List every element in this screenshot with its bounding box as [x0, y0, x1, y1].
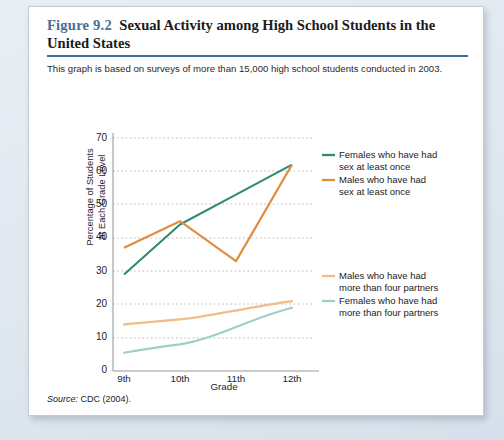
legend-label-line-2: more than four partners [339, 282, 469, 294]
y-axis-label-line-1: Percentage of Students [85, 127, 97, 267]
source-label: Source: [47, 394, 78, 404]
source-text: CDC (2004). [81, 394, 132, 404]
legend-label-line-2: sex at least once [339, 186, 469, 198]
figure-title-line-2: United States [47, 35, 467, 53]
legend-label-line-2: more than four partners [339, 307, 469, 319]
y-tick-label-30: 30 [85, 265, 107, 276]
y-axis-label: Percentage of Students at Each Grade Lev… [85, 127, 108, 267]
axis-lines [113, 133, 319, 371]
x-tick-label-12th: 12th [272, 373, 312, 384]
grid-lines [113, 138, 313, 338]
source-note: Source: CDC (2004). [47, 394, 131, 404]
title-divider [47, 55, 468, 57]
legend-item-males-four-partners: Males who have had more than four partne… [339, 270, 469, 294]
legend-item-females-four-partners: Females who have had more than four part… [339, 295, 469, 319]
x-axis-label: Grade [179, 381, 269, 392]
y-axis-label-line-2: at Each Grade Level [97, 127, 109, 267]
series-line-females-four-partners [124, 308, 292, 353]
legend-label-line-2: sex at least once [339, 161, 469, 173]
y-tick-label-20: 20 [85, 298, 107, 309]
series-line-males-four-partners [124, 301, 292, 324]
legend-item-males-sex-once: Males who have had sex at least once [339, 174, 469, 198]
x-tick-label-9th: 9th [104, 373, 144, 384]
figure-title-line-1: Figure 9.2 Sexual Activity among High Sc… [47, 17, 467, 35]
legend-label-line-1: Males who have had [339, 270, 469, 282]
figure-number: Figure 9.2 [47, 17, 112, 33]
y-tick-label-50: 50 [85, 198, 107, 209]
figure-card: Figure 9.2 Sexual Activity among High Sc… [28, 6, 484, 416]
series-line-males-sex-once [124, 165, 292, 262]
figure-caption: This graph is based on surveys of more t… [47, 62, 472, 75]
legend-label-line-1: Males who have had [339, 174, 469, 186]
y-tick-label-10: 10 [85, 331, 107, 342]
legend-label-line-1: Females who have had [339, 295, 469, 307]
legend-swatches [322, 155, 335, 301]
figure-title-text-1: Sexual Activity among High School Studen… [119, 17, 435, 33]
y-tick-label-70: 70 [85, 132, 107, 143]
series-line-females-sex-once [124, 165, 292, 275]
y-tick-label-40: 40 [85, 231, 107, 242]
legend-item-females-sex-once: Females who have had sex at least once [339, 149, 469, 173]
legend-label-line-1: Females who have had [339, 149, 469, 161]
figure-title: Figure 9.2 Sexual Activity among High Sc… [47, 17, 467, 52]
y-tick-label-60: 60 [85, 165, 107, 176]
